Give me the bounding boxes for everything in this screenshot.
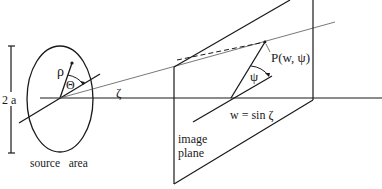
image-plane-label-line1: image xyxy=(178,132,207,146)
optics-diagram: 2 a ρ Θ ζ P(w, ψ) ψ w = sin ζ image plan… xyxy=(0,0,382,189)
w-equation-label: w = sin ζ xyxy=(230,108,273,122)
zeta-label: ζ xyxy=(116,85,122,100)
source-area-ellipse xyxy=(27,46,93,152)
source-area-label: source area xyxy=(30,157,88,169)
rho-endpoint xyxy=(70,61,73,64)
aperture-label: 2 a xyxy=(2,93,17,107)
p-leader xyxy=(266,44,270,52)
p-point xyxy=(264,41,267,44)
psi-label: ψ xyxy=(250,69,258,84)
point-label: P(w, ψ) xyxy=(271,50,310,65)
psi-arrowhead xyxy=(265,73,270,77)
theta-label: Θ xyxy=(66,78,75,92)
image-plane-label-line2: plane xyxy=(178,146,204,160)
rho-label: ρ xyxy=(57,64,64,79)
